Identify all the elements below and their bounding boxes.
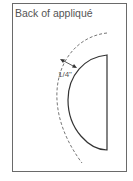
- appliqué-diagram: 1/4": [0, 0, 133, 181]
- seam-allowance-label: 1/4": [58, 70, 72, 79]
- seam-allowance-arrow-icon: [60, 59, 77, 68]
- half-moon-shape: [68, 55, 107, 150]
- cutting-line-dashed: [57, 33, 107, 163]
